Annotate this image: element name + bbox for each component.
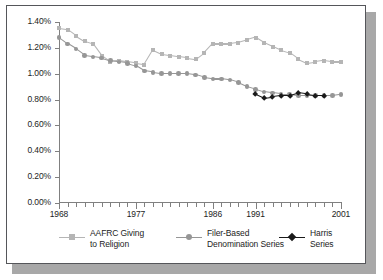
x-axis-tick-mark xyxy=(247,203,248,207)
chart-legend: AAFRC Givingto ReligionFiler-BasedDenomi… xyxy=(59,228,359,258)
x-axis-tick-mark xyxy=(119,203,120,207)
x-axis-tick-mark xyxy=(298,203,299,207)
x-axis-tick-mark xyxy=(179,203,180,207)
legend-marker-icon xyxy=(288,233,296,241)
series-3 xyxy=(59,22,341,203)
y-axis-tick-label: 1.20% xyxy=(27,42,51,52)
legend-label-line-2: Series xyxy=(310,239,334,250)
x-axis-tick-label: 1977 xyxy=(127,209,146,219)
legend-marker-icon xyxy=(69,234,75,240)
legend-label-line-1: Filer-Based xyxy=(207,228,284,239)
data-point-marker xyxy=(295,90,301,96)
x-axis-tick-mark xyxy=(170,203,171,207)
x-axis-tick-mark xyxy=(196,203,197,207)
x-axis-tick-mark xyxy=(273,203,274,207)
legend-label-line-1: AAFRC Giving xyxy=(90,228,144,239)
legend-label: Filer-BasedDenomination Series xyxy=(207,228,284,249)
legend-swatch xyxy=(59,233,85,241)
x-axis-tick-mark xyxy=(307,203,308,207)
data-point-marker xyxy=(304,91,310,97)
x-axis-tick-mark xyxy=(332,203,333,207)
x-axis-tick-mark xyxy=(153,203,154,207)
legend-label-line-2: to Religion xyxy=(90,239,144,250)
x-axis-tick-mark xyxy=(93,203,94,207)
x-axis-tick-label: 1991 xyxy=(246,209,265,219)
figure-frame: 0.00%0.20%0.40%0.60%0.80%1.00%1.20%1.40%… xyxy=(6,5,366,264)
y-axis-tick-label: 1.40% xyxy=(27,16,51,26)
x-axis-tick-mark xyxy=(230,203,231,207)
x-axis-tick-mark xyxy=(315,203,316,207)
x-axis-tick-mark xyxy=(290,203,291,207)
x-axis-tick-mark xyxy=(144,203,145,207)
legend-label: HarrisSeries xyxy=(310,228,334,249)
legend-swatch xyxy=(279,233,305,241)
data-point-marker xyxy=(321,93,327,99)
x-axis-tick-label: 1968 xyxy=(50,209,69,219)
y-axis-tick-label: 0.80% xyxy=(27,94,51,104)
x-axis-tick-mark xyxy=(187,203,188,207)
x-axis-tick-mark xyxy=(264,203,265,207)
x-axis-tick-label: 1986 xyxy=(204,209,223,219)
x-axis-tick-mark xyxy=(76,203,77,207)
legend-label: AAFRC Givingto Religion xyxy=(90,228,144,249)
x-axis-tick-mark xyxy=(281,203,282,207)
legend-label-line-1: Harris xyxy=(310,228,334,239)
data-point-marker xyxy=(278,93,284,99)
data-point-marker xyxy=(312,93,318,99)
y-axis-tick-label: 0.20% xyxy=(27,171,51,181)
legend-swatch xyxy=(176,233,202,241)
plot-area xyxy=(59,22,341,203)
x-axis-tick-mark xyxy=(85,203,86,207)
x-axis-tick-mark xyxy=(127,203,128,207)
y-axis-tick-label: 0.40% xyxy=(27,145,51,155)
y-axis-tick-label: 0.60% xyxy=(27,119,51,129)
x-axis-tick-mark xyxy=(221,203,222,207)
legend-marker-icon xyxy=(186,234,192,240)
chart-page: 0.00%0.20%0.40%0.60%0.80%1.00%1.20%1.40%… xyxy=(0,0,383,280)
x-axis-tick-mark xyxy=(110,203,111,207)
x-axis-tick-mark xyxy=(162,203,163,207)
data-point-marker xyxy=(261,95,267,101)
x-axis-tick-mark xyxy=(68,203,69,207)
x-axis-tick-mark xyxy=(324,203,325,207)
x-axis-tick-label: 2001 xyxy=(332,209,351,219)
legend-label-line-2: Denomination Series xyxy=(207,239,284,250)
x-axis-tick-mark xyxy=(238,203,239,207)
y-axis-tick-label: 1.00% xyxy=(27,68,51,78)
x-axis-tick-mark xyxy=(204,203,205,207)
x-axis-tick-mark xyxy=(102,203,103,207)
y-axis-tick-label: 0.00% xyxy=(27,197,51,207)
